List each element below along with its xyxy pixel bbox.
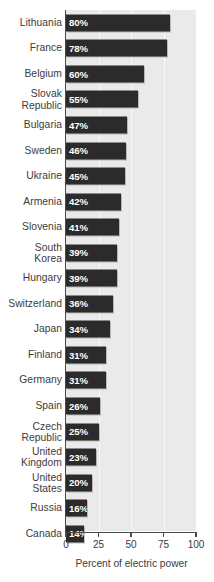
bar-value-label: 34% — [69, 325, 88, 335]
x-axis-tick — [195, 532, 196, 537]
bar: 31% — [66, 372, 106, 389]
category-label: Ukraine — [0, 170, 62, 181]
bar: 78% — [66, 40, 167, 57]
bar-row: Japan34% — [0, 317, 214, 343]
bar-value-label: 47% — [69, 120, 88, 130]
bar-rows: Lithuania80%France78%Belgium60%Slovak Re… — [0, 10, 214, 531]
bar-row: Russia16% — [0, 495, 214, 521]
x-axis-tick-label: 100 — [188, 539, 205, 550]
bar-container: 45% — [66, 168, 125, 185]
bar-container: 42% — [66, 193, 121, 210]
bar: 16% — [66, 500, 87, 517]
category-label: United States — [0, 471, 62, 494]
bar-value-label: 14% — [69, 529, 84, 539]
category-label: France — [0, 43, 62, 54]
bar-value-label: 55% — [69, 95, 88, 105]
bar-chart: Lithuania80%France78%Belgium60%Slovak Re… — [0, 0, 214, 582]
bar-row: South Korea39% — [0, 240, 214, 266]
bar-value-label: 80% — [69, 18, 88, 28]
bar-row: Bulgaria47% — [0, 112, 214, 138]
bar-container: 78% — [66, 40, 167, 57]
bar-value-label: 31% — [69, 376, 88, 386]
bar-value-label: 39% — [69, 248, 88, 258]
bar: 42% — [66, 193, 121, 210]
bar-container: 26% — [66, 397, 100, 414]
category-label: Sweden — [0, 145, 62, 156]
bar-value-label: 42% — [69, 197, 88, 207]
bar-container: 41% — [66, 219, 119, 236]
category-label: Russia — [0, 502, 62, 513]
bar-container: 80% — [66, 14, 170, 31]
bar-value-label: 46% — [69, 146, 88, 156]
category-label: Bulgaria — [0, 119, 62, 130]
bar-container: 23% — [66, 449, 96, 466]
category-label: Hungary — [0, 273, 62, 284]
x-axis-tick — [98, 532, 99, 537]
bar: 20% — [66, 474, 92, 491]
bar: 26% — [66, 397, 100, 414]
bar-value-label: 39% — [69, 273, 88, 283]
bar-container: 31% — [66, 346, 106, 363]
bar: 23% — [66, 449, 96, 466]
category-label: Germany — [0, 375, 62, 386]
bar-container: 55% — [66, 91, 138, 108]
x-axis-tick-label: 50 — [125, 539, 136, 550]
x-axis-tick — [163, 532, 164, 537]
bar-container: 36% — [66, 295, 113, 312]
category-label: Switzerland — [0, 298, 62, 309]
bar-row: France78% — [0, 36, 214, 62]
bar-value-label: 20% — [69, 478, 88, 488]
bar-value-label: 45% — [69, 171, 88, 181]
bar: 60% — [66, 65, 144, 82]
bar-row: Switzerland36% — [0, 291, 214, 317]
bar-row: Armenia42% — [0, 189, 214, 215]
bar: 39% — [66, 270, 117, 287]
bar-value-label: 16% — [69, 503, 87, 513]
category-label: Slovenia — [0, 221, 62, 232]
category-label: Finland — [0, 349, 62, 360]
bar-row: Sweden46% — [0, 138, 214, 164]
category-label: Slovak Republic — [0, 88, 62, 111]
category-label: South Korea — [0, 241, 62, 264]
bar-row: United States20% — [0, 470, 214, 496]
bar: 47% — [66, 116, 127, 133]
bar-row: Lithuania80% — [0, 10, 214, 36]
bar-value-label: 60% — [69, 69, 88, 79]
y-axis-line — [65, 10, 66, 533]
bar-value-label: 78% — [69, 44, 88, 54]
bar: 25% — [66, 423, 99, 440]
bar: 55% — [66, 91, 138, 108]
bar: 80% — [66, 14, 170, 31]
bar: 34% — [66, 321, 110, 338]
x-axis-tick — [130, 532, 131, 537]
bar-row: Ukraine45% — [0, 163, 214, 189]
bar-value-label: 41% — [69, 222, 88, 232]
bar-container: 31% — [66, 372, 106, 389]
bar-value-label: 25% — [69, 427, 88, 437]
bar-row: Slovak Republic55% — [0, 87, 214, 113]
x-axis-tick-label: 0 — [63, 539, 69, 550]
bar-row: Belgium60% — [0, 61, 214, 87]
bar-row: Hungary39% — [0, 265, 214, 291]
bar: 39% — [66, 244, 117, 261]
bar-value-label: 36% — [69, 299, 88, 309]
category-label: Czech Republic — [0, 420, 62, 443]
x-axis-title: Percent of electric power — [66, 558, 197, 569]
bar-row: Slovenia41% — [0, 214, 214, 240]
x-axis-tick-label: 25 — [93, 539, 104, 550]
bar: 45% — [66, 168, 125, 185]
bar-container: 20% — [66, 474, 92, 491]
bar: 41% — [66, 219, 119, 236]
bar-container: 34% — [66, 321, 110, 338]
category-label: Japan — [0, 324, 62, 335]
category-label: Lithuania — [0, 17, 62, 28]
x-axis-tick — [65, 532, 66, 537]
bar-value-label: 31% — [69, 350, 88, 360]
bar-row: United Kingdom23% — [0, 444, 214, 470]
bar-container: 60% — [66, 65, 144, 82]
category-label: Spain — [0, 400, 62, 411]
bar-container: 39% — [66, 270, 117, 287]
bar-container: 47% — [66, 116, 127, 133]
bar: 36% — [66, 295, 113, 312]
category-label: Canada — [0, 528, 62, 539]
